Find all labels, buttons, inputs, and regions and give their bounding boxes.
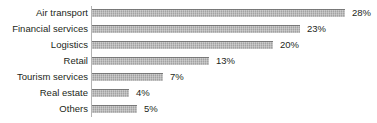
value-label-6: 5%	[144, 101, 158, 117]
bar-0	[92, 9, 345, 17]
bar-5	[92, 89, 129, 97]
bar-wrap-2	[92, 37, 273, 53]
bar-wrap-1	[92, 21, 300, 37]
value-label-2: 20%	[280, 37, 299, 53]
horizontal-bar-chart: Air transport 28% Financial services 23%…	[0, 0, 377, 123]
bar-4	[92, 73, 163, 81]
category-label-5: Real estate	[0, 85, 88, 101]
bar-2	[92, 41, 273, 49]
value-label-5: 4%	[136, 85, 150, 101]
value-label-3: 13%	[216, 53, 235, 69]
bar-wrap-6	[92, 101, 137, 117]
bar-wrap-4	[92, 69, 163, 85]
bar-6	[92, 105, 137, 113]
value-label-0: 28%	[352, 5, 371, 21]
bar-wrap-0	[92, 5, 345, 21]
table-row: Others 5%	[0, 101, 377, 117]
category-label-3: Retail	[0, 53, 88, 69]
bar-wrap-5	[92, 85, 129, 101]
bar-rows-container: Air transport 28% Financial services 23%…	[0, 0, 377, 123]
category-label-0: Air transport	[0, 5, 88, 21]
table-row: Air transport 28%	[0, 5, 377, 21]
table-row: Financial services 23%	[0, 21, 377, 37]
table-row: Tourism services 7%	[0, 69, 377, 85]
table-row: Real estate 4%	[0, 85, 377, 101]
value-label-1: 23%	[307, 21, 326, 37]
category-label-4: Tourism services	[0, 69, 88, 85]
bar-wrap-3	[92, 53, 209, 69]
table-row: Retail 13%	[0, 53, 377, 69]
bar-3	[92, 57, 209, 65]
category-label-1: Financial services	[0, 21, 88, 37]
category-label-2: Logistics	[0, 37, 88, 53]
value-label-4: 7%	[170, 69, 184, 85]
category-label-6: Others	[0, 101, 88, 117]
bar-1	[92, 25, 300, 33]
table-row: Logistics 20%	[0, 37, 377, 53]
